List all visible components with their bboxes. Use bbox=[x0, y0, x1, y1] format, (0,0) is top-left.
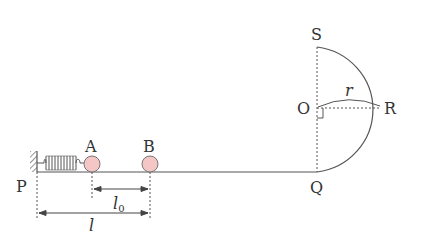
ball-b bbox=[142, 156, 158, 172]
radius-arc bbox=[318, 100, 380, 107]
label-l: l bbox=[89, 216, 94, 232]
label-r: R bbox=[384, 99, 397, 118]
label-q: Q bbox=[310, 178, 323, 197]
label-l0-sub: 0 bbox=[118, 203, 124, 214]
semicircle-track bbox=[317, 47, 373, 172]
spring bbox=[37, 156, 84, 170]
ball-a bbox=[84, 156, 100, 172]
arrowhead-icon bbox=[141, 211, 148, 216]
label-b: B bbox=[143, 137, 155, 156]
label-radius: r bbox=[345, 81, 354, 100]
right-angle-mark bbox=[317, 108, 323, 118]
arrowhead-icon bbox=[141, 187, 148, 192]
arrowhead-icon bbox=[39, 211, 46, 216]
label-s: S bbox=[311, 25, 322, 44]
physics-diagram: P A B Q O R S r l0 l bbox=[0, 0, 421, 232]
label-l0: l0 bbox=[113, 194, 125, 214]
wall bbox=[30, 151, 37, 172]
arrowhead-icon bbox=[94, 187, 101, 192]
label-o: O bbox=[297, 99, 310, 118]
label-p: P bbox=[16, 177, 27, 196]
label-a: A bbox=[84, 137, 97, 156]
